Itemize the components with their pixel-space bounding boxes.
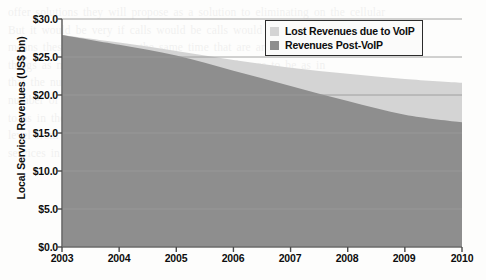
x-tick-label: 2010 <box>440 252 484 264</box>
x-tick-label: 2009 <box>382 252 426 264</box>
x-tick-label: 2005 <box>154 252 198 264</box>
x-tick-label: 2006 <box>211 252 255 264</box>
x-tick-label: 2003 <box>40 252 84 264</box>
legend-swatch-icon <box>270 41 279 50</box>
chart-container: offer solutions they will propose as a s… <box>0 0 486 280</box>
x-tick-label: 2008 <box>325 252 369 264</box>
legend-item-lost-revenues: Lost Revenues due to VoIP <box>270 24 415 38</box>
legend-item-post-voip: Revenues Post-VoIP <box>270 38 415 52</box>
legend-label: Revenues Post-VoIP <box>285 39 383 51</box>
x-tick-label: 2007 <box>268 252 312 264</box>
x-tick-label: 2004 <box>97 252 141 264</box>
chart-legend: Lost Revenues due to VoIP Revenues Post-… <box>265 20 423 56</box>
legend-swatch-icon <box>270 27 279 36</box>
legend-label: Lost Revenues due to VoIP <box>285 25 415 37</box>
